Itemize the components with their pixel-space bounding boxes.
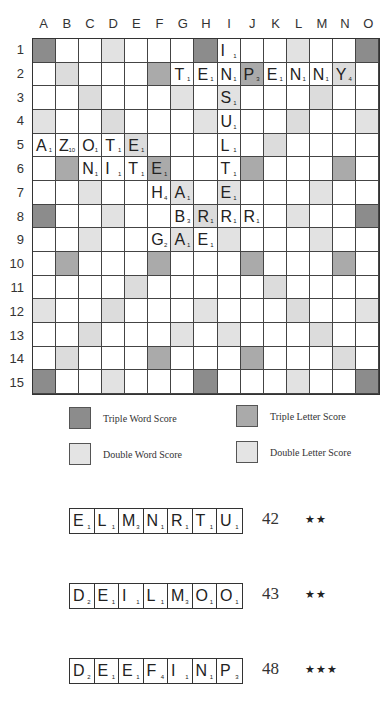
board-cell-H6[interactable] [194, 157, 217, 181]
rack-tile[interactable]: E1 [119, 659, 144, 683]
board-cell-M8[interactable] [310, 205, 333, 229]
board-cell-K3[interactable] [264, 86, 287, 110]
board-cell-L4[interactable] [287, 110, 310, 134]
rack-tile[interactable]: P3 [217, 659, 242, 683]
board-cell-O11[interactable] [356, 276, 379, 300]
board-cell-D4[interactable] [102, 110, 125, 134]
board-cell-C11[interactable] [79, 276, 102, 300]
board-cell-G2[interactable]: T1 [171, 63, 194, 87]
board-cell-I4[interactable]: U1 [218, 110, 241, 134]
board-cell-L10[interactable] [287, 252, 310, 276]
board-cell-G7[interactable]: A1 [171, 181, 194, 205]
board-cell-C15[interactable] [79, 370, 102, 394]
board-cell-M1[interactable] [310, 39, 333, 63]
board-cell-O8[interactable] [356, 205, 379, 229]
board-cell-N7[interactable] [333, 181, 356, 205]
board-cell-C4[interactable] [79, 110, 102, 134]
board-cell-L9[interactable] [287, 228, 310, 252]
board-cell-M3[interactable] [310, 86, 333, 110]
board-cell-I14[interactable] [218, 347, 241, 371]
board-cell-A4[interactable] [33, 110, 56, 134]
board-cell-A10[interactable] [33, 252, 56, 276]
board-cell-N10[interactable] [333, 252, 356, 276]
board-cell-B1[interactable] [56, 39, 79, 63]
board-cell-F15[interactable] [148, 370, 171, 394]
board-cell-O12[interactable] [356, 299, 379, 323]
board-cell-B10[interactable] [56, 252, 79, 276]
board-cell-I8[interactable]: R1 [218, 205, 241, 229]
board-cell-H2[interactable]: E1 [194, 63, 217, 87]
board-cell-J10[interactable] [241, 252, 264, 276]
board-cell-D5[interactable]: T1 [102, 134, 125, 158]
board-cell-H1[interactable] [194, 39, 217, 63]
board-cell-C9[interactable] [79, 228, 102, 252]
board-cell-O15[interactable] [356, 370, 379, 394]
board-cell-I9[interactable] [218, 228, 241, 252]
board-cell-D9[interactable] [102, 228, 125, 252]
board-cell-H8[interactable]: R1 [194, 205, 217, 229]
board-cell-B5[interactable]: Z10 [56, 134, 79, 158]
board-cell-L8[interactable] [287, 205, 310, 229]
board-cell-B6[interactable] [56, 157, 79, 181]
board-cell-L14[interactable] [287, 347, 310, 371]
board-cell-G3[interactable] [171, 86, 194, 110]
board-cell-H10[interactable] [194, 252, 217, 276]
board-cell-A7[interactable] [33, 181, 56, 205]
board-cell-F12[interactable] [148, 299, 171, 323]
board-cell-O9[interactable] [356, 228, 379, 252]
board-cell-F4[interactable] [148, 110, 171, 134]
board-cell-M9[interactable] [310, 228, 333, 252]
board-cell-B12[interactable] [56, 299, 79, 323]
board-cell-K4[interactable] [264, 110, 287, 134]
board-cell-L5[interactable] [287, 134, 310, 158]
board-cell-F9[interactable]: G2 [148, 228, 171, 252]
board-cell-C2[interactable] [79, 63, 102, 87]
board-cell-E2[interactable] [125, 63, 148, 87]
board-cell-L12[interactable] [287, 299, 310, 323]
board-cell-A11[interactable] [33, 276, 56, 300]
board-cell-N1[interactable] [333, 39, 356, 63]
board-cell-M11[interactable] [310, 276, 333, 300]
board-cell-E1[interactable] [125, 39, 148, 63]
board-cell-J2[interactable]: P3 [241, 63, 264, 87]
board-cell-B13[interactable] [56, 323, 79, 347]
board-cell-J5[interactable] [241, 134, 264, 158]
board-cell-C14[interactable] [79, 347, 102, 371]
board-cell-E14[interactable] [125, 347, 148, 371]
board-cell-D3[interactable] [102, 86, 125, 110]
rack-tile[interactable]: O1 [193, 584, 218, 608]
rack-tile[interactable]: D2 [70, 584, 95, 608]
board-cell-K5[interactable] [264, 134, 287, 158]
board-cell-K12[interactable] [264, 299, 287, 323]
board-cell-I5[interactable]: L1 [218, 134, 241, 158]
board-cell-J3[interactable] [241, 86, 264, 110]
board-cell-F6[interactable]: E1 [148, 157, 171, 181]
board-cell-D8[interactable] [102, 205, 125, 229]
board-cell-H5[interactable] [194, 134, 217, 158]
board-cell-F11[interactable] [148, 276, 171, 300]
board-cell-D6[interactable]: I1 [102, 157, 125, 181]
board-cell-O14[interactable] [356, 347, 379, 371]
board-cell-F3[interactable] [148, 86, 171, 110]
board-cell-G11[interactable] [171, 276, 194, 300]
board-cell-F10[interactable] [148, 252, 171, 276]
board-cell-N15[interactable] [333, 370, 356, 394]
rack-tile[interactable]: O1 [217, 584, 242, 608]
board-cell-J14[interactable] [241, 347, 264, 371]
board-cell-A13[interactable] [33, 323, 56, 347]
board-cell-N8[interactable] [333, 205, 356, 229]
board-cell-I6[interactable]: T1 [218, 157, 241, 181]
board-cell-E12[interactable] [125, 299, 148, 323]
board-cell-L13[interactable] [287, 323, 310, 347]
rack-tile[interactable]: R1 [168, 509, 193, 533]
board-cell-D10[interactable] [102, 252, 125, 276]
board-cell-M14[interactable] [310, 347, 333, 371]
board-cell-B2[interactable] [56, 63, 79, 87]
board-cell-H15[interactable] [194, 370, 217, 394]
board-cell-I7[interactable]: E1 [218, 181, 241, 205]
board-cell-O2[interactable] [356, 63, 379, 87]
board-cell-B3[interactable] [56, 86, 79, 110]
board-cell-J8[interactable]: R1 [241, 205, 264, 229]
board-cell-E3[interactable] [125, 86, 148, 110]
board-cell-L2[interactable]: N1 [287, 63, 310, 87]
